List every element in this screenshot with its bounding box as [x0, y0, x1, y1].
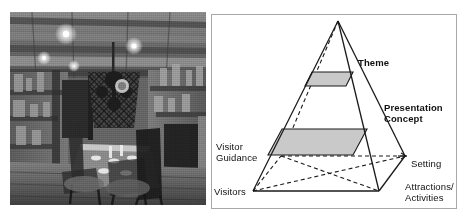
label-visitors: Visitors [214, 186, 246, 197]
label-setting: Setting [411, 158, 441, 169]
theme-band [305, 72, 353, 86]
photograph-graphic [10, 12, 206, 205]
label-attractions-activities: Attractions/ Activities [405, 181, 454, 203]
label-presentation-concept: Presentation Concept [384, 102, 443, 124]
pyramid-diagram-panel: Theme Presentation Concept Visitor Guida… [211, 14, 457, 209]
historic-interior-photograph [10, 12, 206, 205]
presentation-concept-band [268, 129, 367, 155]
label-visitor-guidance: Visitor Guidance [216, 141, 257, 163]
setting-leader-line [398, 153, 407, 159]
figure-root: Theme Presentation Concept Visitor Guida… [0, 0, 465, 220]
label-theme: Theme [358, 57, 389, 68]
pyramid-visible-edges [253, 21, 405, 191]
